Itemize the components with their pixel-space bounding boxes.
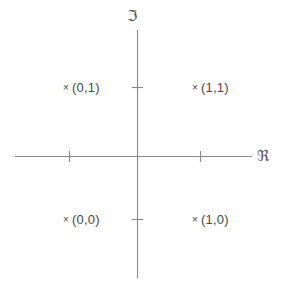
cross-marker-icon: ×: [63, 82, 69, 93]
axes-svg: [0, 0, 281, 286]
data-point-label: (1,0): [201, 212, 229, 227]
data-point-label: (0,0): [72, 212, 100, 227]
imaginary-axis-label: ℑ: [127, 9, 137, 24]
data-point-1-1: ×(1,1): [192, 81, 229, 95]
cross-marker-icon: ×: [63, 214, 69, 225]
data-point-1-0: ×(1,0): [192, 213, 229, 227]
cross-marker-icon: ×: [192, 82, 198, 93]
data-point-0-0: ×(0,0): [63, 213, 100, 227]
real-axis-label: ℜ: [257, 149, 269, 164]
data-point-0-1: ×(0,1): [63, 81, 100, 95]
cross-marker-icon: ×: [192, 214, 198, 225]
data-point-label: (0,1): [72, 80, 100, 95]
complex-plane-figure: ℑ ℜ ×(0,1) ×(1,1) ×(0,0) ×(1,0): [0, 0, 281, 286]
data-point-label: (1,1): [201, 80, 229, 95]
